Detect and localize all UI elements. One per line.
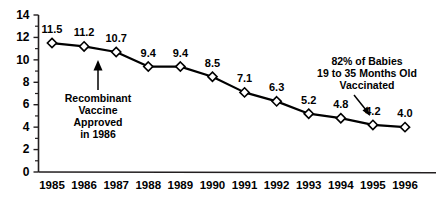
chart-canvas: 14121086420 1985198619871988198919901991…: [0, 0, 440, 199]
x-tick-label: 1987: [103, 179, 129, 191]
hepatitis-b-incidence-chart: 14121086420 1985198619871988198919901991…: [0, 0, 440, 199]
data-point-marker: [47, 38, 56, 47]
annotation-line-0: Recombinant: [65, 92, 132, 104]
data-point-marker: [400, 123, 409, 132]
annotation-line-3: in 1986: [80, 128, 116, 140]
y-tick-label: 14: [16, 8, 30, 22]
data-point-label: 10.7: [105, 32, 126, 44]
data-point-label: 9.4: [141, 47, 157, 59]
y-tick-label: 2: [23, 142, 30, 156]
data-point-label: 4.8: [333, 98, 348, 110]
data-point-label: 8.5: [205, 57, 220, 69]
data-point-label: 6.3: [269, 81, 284, 93]
data-point-marker: [176, 62, 185, 71]
annotation-recombinant-vaccine: Recombinant Vaccine Approved in 1986: [65, 60, 132, 140]
data-point-marker: [336, 114, 345, 123]
x-tick-label: 1990: [200, 179, 226, 191]
data-point-label: 4.0: [397, 107, 412, 119]
data-point-marker: [304, 109, 313, 118]
data-point-marker: [112, 47, 121, 56]
annotation-line-2: Approved: [73, 116, 122, 128]
data-point-label: 11.2: [74, 26, 95, 38]
x-axis-line: [39, 172, 437, 173]
y-tick-label: 8: [23, 75, 30, 89]
data-point-label: 11.5: [42, 23, 63, 35]
data-point-label: 7.1: [237, 72, 252, 84]
data-point-marker: [79, 42, 88, 51]
annotation-line-2: Vaccinated: [340, 79, 395, 91]
data-point-marker: [368, 120, 377, 129]
y-tick-label: 12: [16, 30, 30, 44]
x-tick-label: 1995: [360, 179, 386, 191]
annotation-line-1: 19 to 35 Months Old: [317, 67, 417, 79]
x-tick-label: 1991: [232, 179, 258, 191]
y-tick-label: 10: [16, 53, 30, 67]
annotation-line-0: 82% of Babies: [331, 55, 402, 67]
y-axis-tick-labels: 14121086420: [16, 8, 30, 179]
data-point-marker: [240, 88, 249, 97]
x-tick-label: 1986: [71, 179, 97, 191]
annotation-arrow-line: [354, 95, 366, 110]
y-tick-label: 6: [23, 97, 30, 111]
data-point-marker: [144, 62, 153, 71]
x-tick-label: 1985: [39, 179, 65, 191]
x-tick-label: 1988: [135, 179, 161, 191]
y-tick-label: 4: [23, 120, 30, 134]
data-point-marker: [208, 72, 217, 81]
x-tick-label: 1992: [264, 179, 290, 191]
data-point-marker: [272, 97, 281, 106]
x-axis: 1985198619871988198919901991199219931994…: [39, 172, 437, 191]
y-axis: 14121086420: [16, 8, 38, 179]
data-point-label: 5.2: [301, 94, 316, 106]
annotation-line-1: Vaccine: [78, 104, 117, 116]
x-tick-label: 1996: [392, 179, 418, 191]
x-tick-label: 1993: [296, 179, 322, 191]
data-point-label: 9.4: [173, 47, 189, 59]
x-axis-tick-labels: 1985198619871988198919901991199219931994…: [39, 179, 418, 191]
x-tick-label: 1989: [168, 179, 194, 191]
annotation-arrow-head: [94, 60, 103, 71]
x-tick-label: 1994: [328, 179, 354, 191]
y-tick-label: 0: [23, 165, 30, 179]
